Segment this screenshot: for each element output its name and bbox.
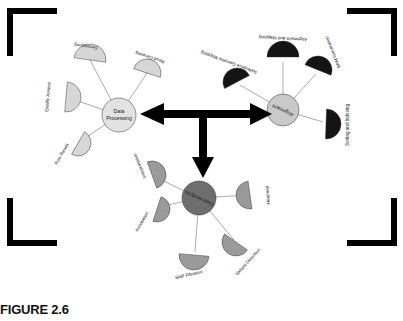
- cluster-alignment: Alignment Alignment and Mapping BAM Gene…: [200, 34, 350, 146]
- arrow-head-left: [140, 103, 164, 125]
- node-label-raw-reads: Raw Reads: [54, 142, 71, 166]
- leaf-snp-filtration: [178, 254, 209, 272]
- leaf-interpretation: [147, 157, 170, 188]
- node-label-snp-filtration: SNP Filtration: [175, 269, 204, 280]
- node-label-alignment-and-mapping: Alignment and Mapping: [258, 34, 307, 42]
- hub-label-data-processing-line2: Processing: [106, 115, 132, 121]
- node-label-interpretation: Interpretation: [132, 152, 147, 179]
- node-label-sorting-and-indexing: Sorting and Indexing: [345, 103, 350, 146]
- leaf-heatmap: [234, 181, 252, 211]
- leaf-sorting-and-indexing: [325, 109, 341, 140]
- cluster-data-processing: Data Processing Genotyping Read Cleaning…: [44, 42, 165, 165]
- leaf-annotation: [153, 197, 173, 226]
- figure-container: Data Processing Genotyping Read Cleaning…: [0, 0, 403, 321]
- leaf-alignment-and-mapping: [267, 41, 299, 57]
- workflow-diagram: Data Processing Genotyping Read Cleaning…: [0, 0, 403, 321]
- leaf-variant-detection: [217, 234, 248, 262]
- arrow-head-down: [192, 157, 214, 178]
- figure-caption: FIGURE 2.6: [0, 302, 69, 317]
- hub-label-data-processing-line1: Data: [114, 108, 125, 114]
- leaf-raw-reads: [72, 132, 96, 161]
- arrow-down: [192, 110, 214, 178]
- leaf-quality-assess: [65, 82, 83, 113]
- node-label-heatmap: Heatmap: [264, 185, 271, 204]
- node-label-quality-assess: Quality Assess: [44, 81, 52, 112]
- node-label-annotation: Annotation: [134, 211, 150, 233]
- node-label-genotyping: Genotyping: [74, 42, 98, 50]
